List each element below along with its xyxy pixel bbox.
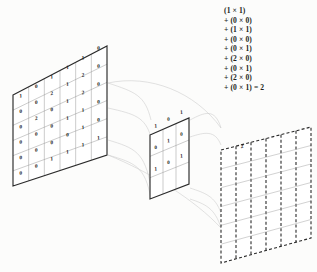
equation-line: + (0 × 1)	[224, 44, 316, 54]
equation-line: + (0 × 1)	[224, 64, 316, 74]
input-matrix-cell: 1	[66, 64, 69, 70]
input-matrix-plane: 101110002120020120000110000010001111	[13, 45, 107, 186]
equation-line: + (0 × 1) = 2	[224, 83, 316, 93]
equation-line: + (2 × 0)	[224, 73, 316, 83]
kernel-matrix-cell: 1	[180, 109, 183, 115]
equation-line: + (0 × 0)	[224, 16, 316, 26]
output-cell-values: 2	[241, 143, 244, 149]
kernel-matrix-cell: 0	[167, 115, 170, 121]
output-matrix-cell: 2	[241, 143, 244, 149]
equation-line: + (1 × 1)	[224, 25, 316, 35]
input-matrix-cell: 1	[82, 54, 85, 60]
equation-line: + (2 × 0)	[224, 54, 316, 64]
diagram-canvas: 101110002120020120000110000010001111 101…	[0, 0, 317, 272]
kernel-matrix-plane: 101010101	[150, 109, 189, 199]
output-matrix-plane: 2	[221, 127, 311, 263]
equation-line: (1 × 1)	[224, 6, 316, 16]
equation-line: + (0 × 0)	[224, 35, 316, 45]
kernel-matrix-cell: 1	[154, 122, 157, 128]
input-matrix-cell: 0	[97, 45, 100, 51]
convolution-equation: (1 × 1)+ (0 × 0)+ (1 × 1)+ (0 × 0)+ (0 ×…	[224, 6, 316, 92]
